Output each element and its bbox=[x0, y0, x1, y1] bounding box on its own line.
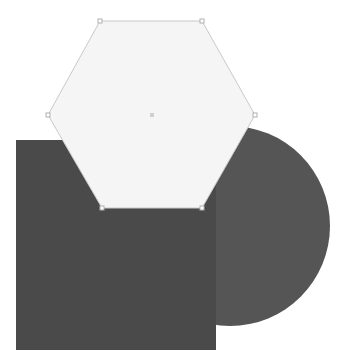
shape-composition-canvas[interactable] bbox=[0, 0, 358, 364]
hexagon-vertex-handle-1[interactable] bbox=[200, 19, 204, 23]
hexagon-vertex-handle-3[interactable] bbox=[200, 206, 204, 210]
hexagon-vertex-handle-4[interactable] bbox=[100, 206, 104, 210]
shapes-layer bbox=[0, 0, 358, 364]
hexagon-center-handle[interactable] bbox=[150, 113, 154, 117]
hexagon-vertex-handle-2[interactable] bbox=[253, 113, 257, 117]
hexagon-vertex-handle-0[interactable] bbox=[98, 19, 102, 23]
hexagon-vertex-handle-5[interactable] bbox=[46, 113, 50, 117]
